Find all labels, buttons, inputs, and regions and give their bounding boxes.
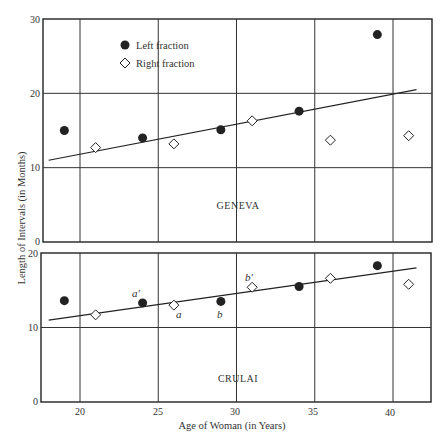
data-point-left-fraction	[373, 261, 382, 270]
geneva-panel-title: GENEVA	[217, 200, 260, 211]
data-point-left-fraction	[138, 298, 147, 307]
y-tick: 30	[30, 14, 40, 25]
data-point-left-fraction	[295, 107, 304, 116]
crulai-y-ticks: 0 10 20	[28, 248, 38, 407]
chart-canvas: GENEVA CRULAI Left fraction Right fracti…	[0, 0, 445, 440]
data-point-left-fraction	[295, 282, 304, 291]
data-point-right-fraction	[404, 279, 414, 289]
annotation-a: a	[176, 308, 182, 320]
data-point-right-fraction	[404, 131, 414, 141]
data-point-right-fraction	[247, 116, 257, 126]
data-point-right-fraction	[325, 135, 335, 145]
x-tick: 20	[75, 406, 85, 417]
legend-right-fraction: Right fraction	[136, 58, 195, 69]
y-tick: 20	[28, 248, 38, 259]
data-point-right-fraction	[325, 273, 335, 283]
legend-left-fraction: Left fraction	[136, 40, 190, 51]
x-tick: 30	[230, 406, 240, 417]
data-point-left-fraction	[138, 133, 147, 142]
data-point-left-fraction	[60, 296, 69, 305]
x-tick: 35	[308, 406, 318, 417]
crulai-panel-title: CRULAI	[218, 373, 258, 384]
trend-line	[49, 90, 417, 161]
trend-line	[49, 268, 417, 320]
data-point-left-fraction	[60, 126, 69, 135]
y-axis-label: Length of Intervals (in Months)	[16, 151, 28, 284]
y-tick: 10	[30, 162, 40, 173]
annotation-b-prime: b′	[245, 271, 254, 283]
x-axis-label: Age of Woman (in Years)	[178, 420, 286, 432]
y-tick: 0	[33, 396, 38, 407]
y-tick: 20	[30, 88, 40, 99]
y-tick: 0	[35, 236, 40, 247]
legend-open-diamond-icon	[120, 58, 130, 68]
data-point-left-fraction	[216, 125, 225, 134]
annotation-a-prime: a′	[132, 287, 141, 299]
legend-filled-circle-icon	[121, 41, 130, 50]
data-point-right-fraction	[169, 139, 179, 149]
data-point-left-fraction	[373, 30, 382, 39]
y-tick: 10	[28, 322, 38, 333]
geneva-y-ticks: 0 10 20 30	[30, 14, 40, 247]
data-point-right-fraction	[91, 310, 101, 320]
x-tick: 40	[385, 407, 395, 418]
legend: Left fraction Right fraction	[120, 40, 195, 69]
annotation-b: b	[217, 308, 223, 320]
data-point-left-fraction	[216, 297, 225, 306]
x-tick: 25	[153, 406, 163, 417]
x-axis-ticks: 20 25 30 35 40	[75, 406, 395, 418]
